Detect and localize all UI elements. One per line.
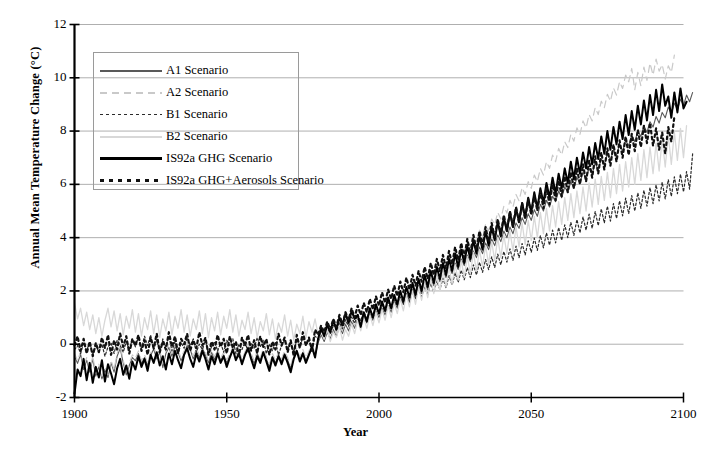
legend-swatch-icon	[100, 153, 162, 165]
legend-item-5: IS92a GHG+Aerosols Scenario	[94, 169, 300, 192]
chart-legend: A1 ScenarioA2 ScenarioB1 ScenarioB2 Scen…	[93, 52, 299, 190]
legend-swatch-icon	[100, 109, 162, 121]
climate-scenario-chart: 121086420-2 19001950200020502100 Annual …	[0, 0, 711, 449]
x-tick-label: 2050	[501, 406, 561, 422]
y-axis-title: Annual Mean Temperature Change (°C)	[28, 0, 43, 323]
legend-item-3: B2 Scenario	[94, 125, 300, 148]
x-tick-label: 2000	[349, 406, 409, 422]
legend-swatch-icon	[100, 131, 162, 143]
legend-label: IS92a GHG+Aerosols Scenario	[166, 173, 324, 188]
x-tick-label: 2100	[654, 406, 711, 422]
legend-item-0: A1 Scenario	[94, 59, 300, 82]
legend-swatch-icon	[100, 87, 162, 99]
x-tick-label: 1950	[197, 406, 257, 422]
legend-item-1: A2 Scenario	[94, 81, 300, 104]
x-tick-label: 1900	[45, 406, 105, 422]
legend-label: B1 Scenario	[166, 107, 227, 122]
legend-label: B2 Scenario	[166, 129, 227, 144]
legend-swatch-icon	[100, 65, 162, 77]
legend-swatch-icon	[100, 175, 162, 187]
y-tick-label: 0	[31, 335, 67, 351]
legend-item-2: B1 Scenario	[94, 103, 300, 126]
y-tick-label: -2	[31, 389, 67, 405]
legend-item-4: IS92a GHG Scenario	[94, 147, 300, 170]
legend-label: A2 Scenario	[166, 85, 228, 100]
legend-label: IS92a GHG Scenario	[166, 151, 272, 166]
legend-label: A1 Scenario	[166, 63, 228, 78]
x-axis-title: Year	[0, 425, 711, 440]
